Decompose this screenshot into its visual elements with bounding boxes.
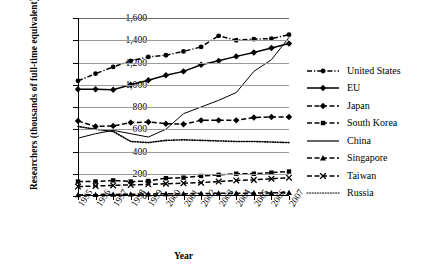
legend-item-japan[interactable]: Japan	[305, 97, 441, 115]
legend-label: Japan	[341, 100, 370, 112]
legend-symbol-icon	[305, 134, 341, 148]
y-axis-title: Researchers (thousands of full-time equi…	[28, 0, 40, 194]
legend-symbol-icon	[305, 151, 341, 165]
legend-label: EU	[341, 82, 360, 94]
legend-item-china[interactable]: China	[305, 132, 441, 150]
legend-label: United States	[341, 65, 401, 77]
legend-item-eu[interactable]: EU	[305, 80, 441, 98]
plot-area	[78, 18, 289, 196]
legend-item-russia[interactable]: Russia	[305, 185, 441, 203]
legend-symbol-icon	[305, 99, 341, 113]
legend-label: China	[341, 135, 371, 147]
legend-label: South Korea	[341, 117, 397, 129]
legend-label: Taiwan	[341, 170, 376, 182]
legend-item-united-states[interactable]: United States	[305, 62, 441, 80]
legend-label: Singapore	[341, 152, 388, 164]
researchers-line-chart: Researchers (thousands of full-time equi…	[0, 0, 441, 273]
legend-item-singapore[interactable]: Singapore	[305, 150, 441, 168]
legend-symbol-icon	[305, 186, 341, 200]
legend: United StatesEUJapanSouth KoreaChinaSing…	[305, 62, 441, 202]
axis-frame	[78, 18, 289, 196]
x-axis-title: Year	[78, 250, 289, 261]
x-tick-label: 2007	[287, 187, 306, 208]
legend-label: Russia	[341, 187, 374, 199]
legend-symbol-icon	[305, 169, 341, 183]
legend-symbol-icon	[305, 64, 341, 78]
legend-symbol-icon	[305, 116, 341, 130]
legend-item-south-korea[interactable]: South Korea	[305, 115, 441, 133]
legend-symbol-icon	[305, 81, 341, 95]
legend-item-taiwan[interactable]: Taiwan	[305, 167, 441, 185]
